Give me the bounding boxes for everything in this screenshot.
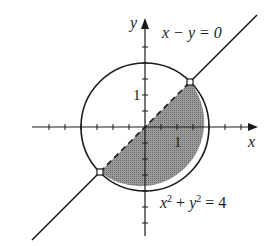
tick-label-x-1: 1 [174,134,182,150]
circle-equation-label: x2 + y2 = 4 [159,193,226,212]
intersection-point-lower [97,169,103,175]
y-axis-label: y [128,14,138,32]
tick-label-y-1: 1 [133,87,141,103]
diagram-figure: y x 1 1 x − y = 0 x2 + y2 = 4 [0,0,272,246]
shaded-region [100,82,204,186]
x-axis-label: x [247,133,255,150]
x-axis-arrow-icon [248,123,258,131]
y-axis-arrow-icon [141,18,149,29]
intersection-point-upper [187,79,193,85]
line-equation-label: x − y = 0 [161,24,222,42]
